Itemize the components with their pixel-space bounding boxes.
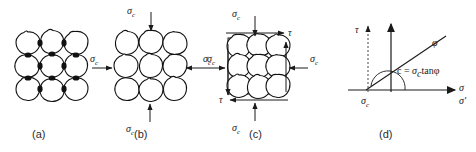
panel-b-sigma-c-top-label: σc <box>127 5 136 19</box>
phi-angle-label: φ <box>432 37 438 48</box>
sigma-prime-axis-label: σ' <box>459 95 467 106</box>
tau-dashed-axis-label: τ <box>355 24 359 35</box>
sigma-c-offset-label: σc <box>361 95 370 109</box>
panel-label-b: (b) <box>134 128 147 140</box>
panel-d-mohr-coulomb-plot: σ σ' τ σc φ c = σctanφ <box>348 24 467 109</box>
panel-b-sigma-c-left-label: σc <box>90 53 99 67</box>
panel-c-sigma-c-bottom-label: σc <box>232 122 241 136</box>
cohesion-equation-label: c = σctanφ <box>397 65 440 79</box>
panel-label-a: (a) <box>32 128 45 140</box>
panel-a-grain-assembly <box>15 29 88 101</box>
panel-b-confined-assembly: σc σc σc σc <box>90 5 216 137</box>
panel-c-sigma-c-top-label: σc <box>232 8 241 22</box>
figure-svg: σc σc σc σc <box>0 0 476 152</box>
panel-label-d: (d) <box>379 128 392 140</box>
figure-root: σc σc σc σc <box>0 0 476 152</box>
sigma-axis-label: σ <box>459 82 465 93</box>
panel-c-sigma-c-right-label: σc <box>310 53 319 67</box>
panel-c-tau-bottom-label: τ <box>219 94 223 105</box>
panel-c-tau-top-label: τ <box>288 27 292 38</box>
panel-label-c: (c) <box>249 128 262 140</box>
panel-c-sheared-assembly: τ τ σc σc σc σc <box>203 8 319 136</box>
